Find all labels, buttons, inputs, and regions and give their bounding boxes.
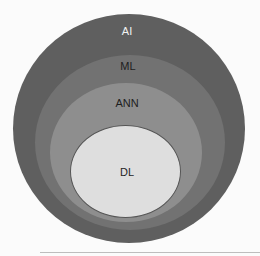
dl-label: DL — [120, 166, 134, 178]
ai-label: AI — [122, 25, 132, 37]
nested-circles-diagram: AI ML ANN DL — [0, 0, 260, 256]
ml-label: ML — [120, 60, 135, 72]
ann-label: ANN — [115, 97, 138, 109]
divider — [40, 252, 260, 253]
